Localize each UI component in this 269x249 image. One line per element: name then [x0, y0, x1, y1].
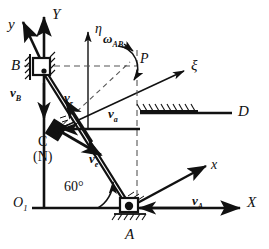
- origin-label-O1: O1: [13, 196, 28, 212]
- diagram-canvas: [0, 0, 269, 249]
- vector-subscript-vr: r: [70, 99, 73, 108]
- vector-label-ve: ve: [89, 152, 99, 169]
- vector-label-vr: vr: [64, 91, 73, 108]
- point-label-A: A: [125, 227, 134, 242]
- angle-arc-60: [98, 182, 113, 208]
- point-label-N: (N): [33, 150, 52, 164]
- angle-arc-omega-AB: [118, 44, 138, 80]
- point-label-P: P: [140, 52, 149, 66]
- vector-subscript-va: a: [114, 115, 118, 124]
- axis-label-X: X: [247, 195, 256, 210]
- point-label-C: C: [38, 135, 47, 149]
- vector-label-vB: vB: [10, 86, 21, 103]
- axis-label-y-moving: y: [8, 17, 15, 32]
- omega-subscript: AB: [112, 40, 123, 49]
- vector-subscript-ve: e: [95, 160, 99, 169]
- angle-label-omega-AB: ωAB: [103, 32, 124, 49]
- point-label-B: B: [11, 58, 20, 73]
- axis-label-xi: ξ: [191, 58, 197, 73]
- vector-subscript-vA: A: [198, 202, 204, 211]
- guide-D: [137, 104, 232, 113]
- axis-label-Y: Y: [52, 7, 60, 22]
- origin-subscript: 1: [23, 203, 28, 213]
- angle-label-60: 60°: [64, 180, 84, 194]
- kinematics-diagram: X Y O1 x y ξ η A B C (N) P D vB vr va ve…: [0, 0, 269, 249]
- axis-label-eta: η: [95, 22, 102, 36]
- origin-letter: O: [13, 195, 23, 210]
- omega-letter: ω: [103, 31, 112, 46]
- vector-label-vA: vA: [192, 194, 203, 211]
- support-A: [112, 192, 146, 220]
- point-label-D: D: [238, 104, 249, 119]
- axis-label-x-moving: x: [211, 158, 217, 172]
- vector-subscript-vB: B: [16, 94, 22, 103]
- vector-label-va: va: [108, 107, 118, 124]
